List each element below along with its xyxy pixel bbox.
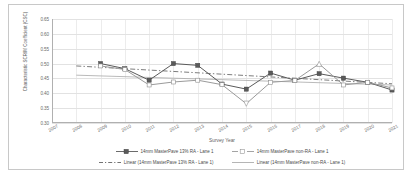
y-axis-tick-label: 0.30 xyxy=(19,121,49,126)
x-axis-tick-label: 2020 xyxy=(363,123,374,132)
y-axis-tick-label: 0.45 xyxy=(19,76,49,81)
x-axis-tick-label: 2012 xyxy=(169,123,180,132)
data-point-marker xyxy=(171,80,175,84)
x-axis-tick-label: 2008 xyxy=(72,123,83,132)
legend-entry-masterpave-13ra[interactable]: 14mm MasterPave 13% RA - Lane 1 xyxy=(116,148,214,155)
y-axis-tick-labels: 0.300.350.400.450.500.550.600.65 xyxy=(17,19,49,123)
legend-entry-trend-nonra[interactable]: Linear (14mm MasterPave non-RA - Lane 1) xyxy=(232,159,346,166)
data-point-marker xyxy=(99,64,103,68)
data-point-marker xyxy=(317,72,321,76)
data-point-marker xyxy=(366,80,370,84)
y-axis-tick-label: 0.65 xyxy=(19,17,49,22)
data-point-marker xyxy=(196,63,200,67)
x-axis-tick-label: 2018 xyxy=(315,123,326,132)
legend-label: Linear (14mm MasterPave non-RA - Lane 1) xyxy=(257,160,346,165)
x-axis-tick-label: 2019 xyxy=(339,123,350,132)
data-point-marker xyxy=(269,80,273,84)
series-layer xyxy=(52,19,392,123)
legend-row-2: Linear (14mm MasterPave 13% RA - Lane 1)… xyxy=(52,157,392,168)
y-axis-tick-label: 0.40 xyxy=(19,91,49,96)
legend-entry-masterpave-nonra[interactable]: 14mm MasterPave non-RA - Lane 1 xyxy=(232,148,329,155)
legend-marker-filled-square-icon xyxy=(116,148,138,155)
y-axis-tick-label: 0.50 xyxy=(19,61,49,66)
legend-row-1: 14mm MasterPave 13% RA - Lane 1 14mm Mas… xyxy=(52,146,392,157)
x-axis-tick-label: 2021 xyxy=(388,123,399,132)
data-point-marker xyxy=(341,76,345,80)
chart-legend: 14mm MasterPave 13% RA - Lane 1 14mm Mas… xyxy=(52,146,392,168)
legend-entry-trend-13ra[interactable]: Linear (14mm MasterPave 13% RA - Lane 1) xyxy=(99,159,214,166)
y-axis-tick-label: 0.55 xyxy=(19,46,49,51)
x-axis-tick-label: 2009 xyxy=(96,123,107,132)
data-point-marker xyxy=(341,83,345,87)
data-point-marker xyxy=(244,101,249,106)
data-point-marker xyxy=(390,86,394,90)
legend-marker-open-square-icon xyxy=(232,148,254,155)
series-line xyxy=(101,64,392,90)
data-point-marker xyxy=(123,68,127,72)
x-axis-tick-label: 2014 xyxy=(218,123,229,132)
x-axis-tick-label: 2015 xyxy=(242,123,253,132)
legend-label: 14mm MasterPave non-RA - Lane 1 xyxy=(257,149,329,154)
legend-label: 14mm MasterPave 13% RA - Lane 1 xyxy=(141,149,214,154)
x-axis-title: Survey Year xyxy=(52,138,392,143)
y-axis-tick-label: 0.60 xyxy=(19,31,49,36)
chart-figure: Characteristic SCRIM Coefficient (CSC) 0… xyxy=(8,4,404,170)
data-point-marker xyxy=(220,83,224,87)
data-point-marker xyxy=(293,79,297,83)
x-axis-tick-label: 2011 xyxy=(145,124,156,133)
x-axis-tick-label: 2013 xyxy=(193,123,204,132)
x-axis-tick-label: 2016 xyxy=(266,123,277,132)
data-point-marker xyxy=(147,83,151,87)
x-axis-tick-label: 2010 xyxy=(120,123,131,132)
y-axis-tick-label: 0.35 xyxy=(19,106,49,111)
data-point-marker xyxy=(317,61,322,66)
x-axis-tick-label: 2017 xyxy=(290,123,301,132)
x-axis-tick-label: 2007 xyxy=(48,123,59,132)
data-point-marker xyxy=(196,78,200,82)
legend-solid-line-icon xyxy=(232,159,254,166)
data-point-marker xyxy=(147,78,151,82)
data-point-marker xyxy=(268,71,272,75)
legend-label: Linear (14mm MasterPave 13% RA - Lane 1) xyxy=(124,160,214,165)
plot-area xyxy=(52,19,392,123)
vertical-gridline xyxy=(392,19,393,123)
data-point-marker xyxy=(171,61,175,65)
data-point-marker xyxy=(244,87,248,91)
legend-dashed-line-icon xyxy=(99,159,121,166)
